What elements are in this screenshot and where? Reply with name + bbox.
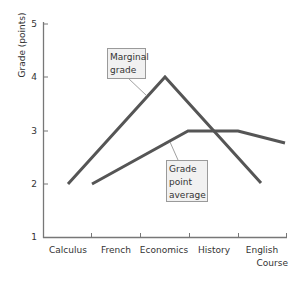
svg-text:History: History xyxy=(198,245,231,255)
y-tick-labels: 5 4 3 2 1 xyxy=(31,19,37,242)
gpa-leader xyxy=(170,142,178,160)
y-axis-title: Grade (points) xyxy=(17,13,27,78)
svg-text:Grade: Grade xyxy=(169,164,197,174)
svg-text:Calculus: Calculus xyxy=(49,245,87,255)
x-tick-labels: Calculus French Economics History Englis… xyxy=(49,245,278,255)
svg-text:4: 4 xyxy=(31,72,37,82)
svg-text:average: average xyxy=(169,190,206,200)
svg-text:5: 5 xyxy=(31,19,37,29)
chart: Grade (points) 5 4 3 2 1 Calculus French… xyxy=(0,0,306,283)
svg-text:French: French xyxy=(101,245,131,255)
svg-text:Economics: Economics xyxy=(140,245,189,255)
x-axis-title: Course xyxy=(257,258,289,268)
svg-text:Marginal: Marginal xyxy=(110,52,149,62)
svg-text:1: 1 xyxy=(31,232,37,242)
svg-text:3: 3 xyxy=(31,126,37,136)
svg-text:2: 2 xyxy=(31,179,37,189)
marginal-grade-leader xyxy=(128,78,147,96)
marginal-grade-annotation: Marginal grade xyxy=(108,49,149,79)
svg-text:grade: grade xyxy=(110,65,137,75)
gpa-annotation: Grade point average xyxy=(167,161,208,202)
svg-text:point: point xyxy=(169,177,192,187)
svg-text:English: English xyxy=(246,245,279,255)
